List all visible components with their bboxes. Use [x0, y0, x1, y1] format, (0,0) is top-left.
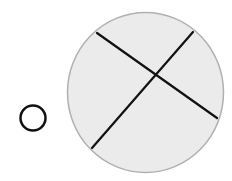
- small-circle-shape: [21, 106, 46, 131]
- large-circle-shape: [68, 13, 224, 173]
- diagram-canvas: [0, 0, 232, 181]
